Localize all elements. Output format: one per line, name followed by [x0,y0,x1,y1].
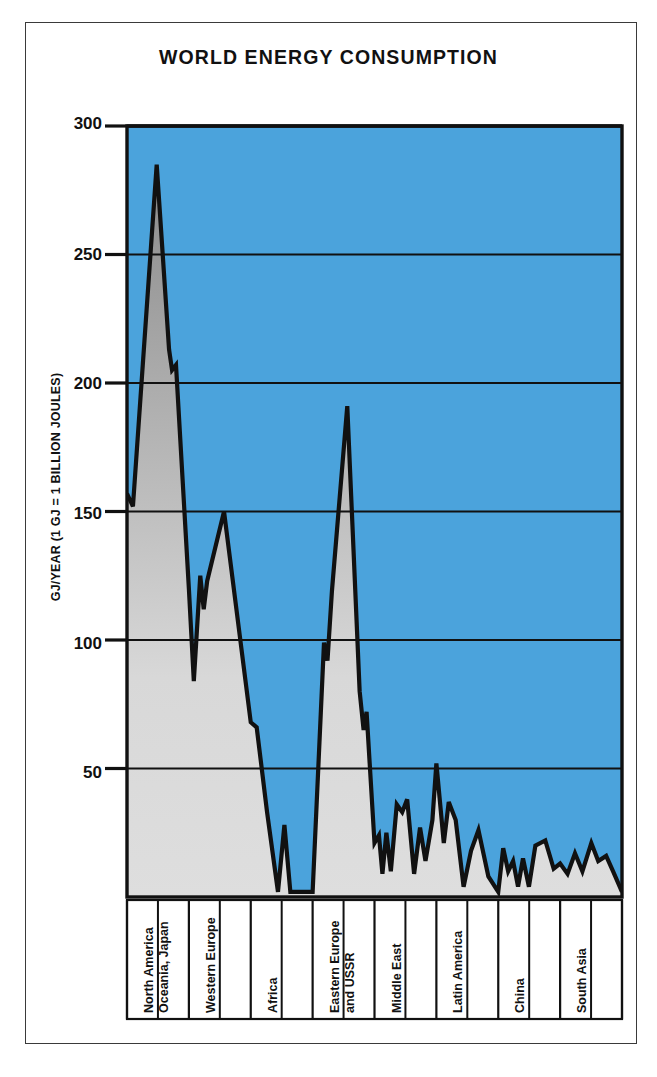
x-axis-label-line1: Africa [266,978,281,1013]
y-axis-ticks [105,126,127,769]
x-axis-category-band [127,900,622,1019]
x-axis-label-5: Latin America [451,931,466,1013]
chart-figure: WORLD ENERGY CONSUMPTION GJ/YEAR (1 GJ =… [0,0,657,1077]
x-axis-label-line1: China [513,978,528,1013]
x-axis-label-0: North AmericaOceania, Japan [142,921,172,1013]
x-axis-label-line1: Western Europe [204,917,219,1013]
x-axis-label-7: South Asia [575,948,590,1013]
x-axis-label-line2: Oceania, Japan [157,921,172,1013]
x-axis-label-6: China [513,978,528,1013]
x-axis-label-3: Eastern Europeand USSR [328,921,358,1013]
x-axis-label-line1: Middle East [390,944,405,1013]
x-axis-label-4: Middle East [390,944,405,1013]
x-axis-label-line1: North America [142,921,157,1013]
x-axis-label-line1: Latin America [451,931,466,1013]
x-axis-label-1: Western Europe [204,917,219,1013]
x-axis-label-line1: Eastern Europe [328,921,343,1013]
x-axis-label-line1: South Asia [575,948,590,1013]
x-axis-label-line2: and USSR [342,921,357,1013]
x-axis-label-2: Africa [266,978,281,1013]
plot-area [0,0,657,1077]
